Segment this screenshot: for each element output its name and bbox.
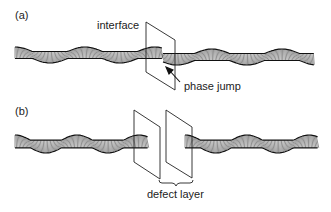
phase-jump-label: phase jump xyxy=(184,81,241,92)
ribbon-a-right xyxy=(162,49,315,65)
panel-label-b: (b) xyxy=(15,106,28,117)
ribbon-b-left xyxy=(15,135,149,153)
diagram-canvas xyxy=(0,0,331,212)
ribbon-b-right xyxy=(185,135,319,153)
panel-label-a: (a) xyxy=(15,10,28,21)
brace-icon xyxy=(159,180,193,186)
defect-plane-right xyxy=(166,110,192,178)
interface-plane xyxy=(146,22,175,90)
ribbon-a-left xyxy=(15,47,163,63)
interface-label: interface xyxy=(97,20,139,31)
defect-layer-label: defect layer xyxy=(147,189,204,200)
